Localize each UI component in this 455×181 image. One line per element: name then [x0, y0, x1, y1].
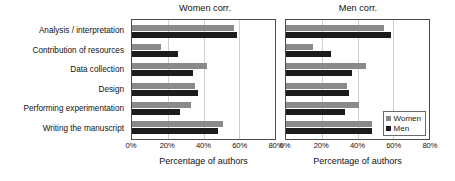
bar-men: [286, 128, 372, 134]
bar-men: [132, 109, 180, 115]
bar-women: [286, 63, 366, 69]
x-axis-label: Percentage of authors: [131, 155, 276, 167]
bar-group: [132, 120, 275, 135]
panel-men-corr: Men corr. Women Men 0%20%40%60%80% Perce…: [283, 0, 455, 181]
category-label: Design: [99, 85, 129, 94]
bar-women: [132, 121, 223, 127]
legend-label: Women: [394, 114, 421, 123]
bar-women: [286, 83, 347, 89]
bar-men: [286, 90, 349, 96]
bar-group: [132, 82, 275, 97]
category-axis-labels: Analysis / interpretation Contribution o…: [0, 21, 128, 138]
bar-group: [132, 62, 275, 77]
x-axis-ticks: 0%20%40%60%80%: [131, 141, 276, 153]
x-tick-label: 0%: [280, 141, 291, 151]
bar-women: [132, 63, 207, 69]
plot-area-women-corr: [131, 19, 276, 140]
x-tick-label: 0%: [126, 141, 137, 151]
x-tick-label: 60%: [232, 141, 247, 151]
x-tick-label: 20%: [160, 141, 175, 151]
legend-entry-men: Men: [386, 124, 421, 133]
plot-area-men-corr: Women Men: [285, 19, 430, 140]
panel-title: Women corr.: [129, 2, 281, 14]
bar-men: [132, 51, 178, 57]
legend-swatch-icon: [386, 126, 391, 131]
bar-group: [286, 62, 429, 77]
bar-men: [286, 51, 331, 57]
category-label: Performing experimentation: [23, 104, 128, 113]
bar-women: [132, 102, 191, 108]
category-label: Analysis / interpretation: [39, 26, 128, 35]
bar-group: [286, 82, 429, 97]
x-tick-label: 40%: [196, 141, 211, 151]
bar-women: [286, 102, 359, 108]
bar-men: [286, 32, 391, 38]
bar-women: [286, 121, 372, 127]
legend-entry-women: Women: [386, 114, 421, 123]
bar-group: [132, 43, 275, 58]
category-label: Writing the manuscript: [43, 124, 128, 133]
bar-men: [132, 128, 218, 134]
bar-men: [286, 109, 345, 115]
gridline: [429, 20, 430, 139]
bar-men: [286, 70, 352, 76]
panel-title: Men corr.: [283, 2, 433, 14]
legend-swatch-icon: [386, 116, 391, 121]
bar-women: [132, 25, 234, 31]
x-tick-label: 60%: [386, 141, 401, 151]
x-axis-ticks: 0%20%40%60%80%: [285, 141, 430, 153]
dual-bar-chart-figure: Analysis / interpretation Contribution o…: [0, 0, 455, 181]
bar-group: [132, 24, 275, 39]
bar-group: [286, 43, 429, 58]
bar-women: [132, 44, 161, 50]
bar-men: [132, 32, 237, 38]
bar-women: [286, 44, 313, 50]
bar-group: [132, 101, 275, 116]
x-tick-label: 20%: [314, 141, 329, 151]
panel-women-corr: Women corr. 0%20%40%60%80% Percentage of…: [129, 0, 281, 181]
bar-women: [132, 83, 195, 89]
gridline: [275, 20, 276, 139]
category-label: Data collection: [70, 65, 128, 74]
legend-label: Men: [394, 124, 410, 133]
x-tick-label: 40%: [350, 141, 365, 151]
bar-groups: [132, 20, 275, 139]
x-axis-label: Percentage of authors: [285, 155, 430, 167]
legend: Women Men: [383, 111, 426, 136]
category-label: Contribution of resources: [33, 46, 128, 55]
bar-men: [132, 70, 193, 76]
bar-women: [286, 25, 384, 31]
bar-men: [132, 90, 198, 96]
bar-group: [286, 24, 429, 39]
x-tick-label: 80%: [422, 141, 437, 151]
